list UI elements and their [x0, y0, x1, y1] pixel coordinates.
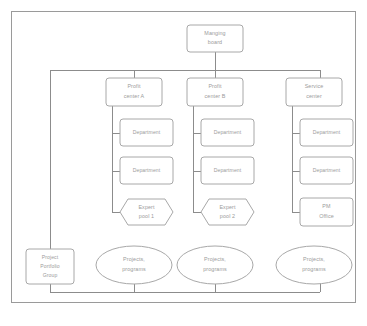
project-portfolio-group-label-line3: Group: [43, 272, 58, 278]
node-department-s1[interactable]: Department: [300, 119, 353, 146]
node-department-b1[interactable]: Department: [201, 119, 254, 146]
node-pm-office[interactable]: PM Office: [300, 198, 353, 226]
managing-board-label-line2: board: [208, 39, 222, 45]
node-profit-center-a[interactable]: Profit center A: [106, 78, 162, 106]
department-b2-label: Department: [214, 167, 242, 173]
profit-center-b-label-line2: center B: [205, 93, 226, 99]
profit-center-a-label-line1: Profit: [127, 83, 141, 89]
projects-programs-a-label-line2: programs: [122, 266, 146, 272]
project-portfolio-group-label-line2: Portfolio: [40, 263, 60, 269]
department-a2-label: Department: [133, 167, 161, 173]
profit-center-b-label-line1: Profit: [208, 83, 222, 89]
org-chart-canvas: Manging board Profit center A Profit cen…: [0, 0, 367, 326]
node-projects-programs-a[interactable]: Projects, programs: [96, 246, 172, 284]
expert-pool-2-label-line1: Expert: [219, 204, 236, 210]
department-s1-label: Department: [313, 129, 341, 135]
node-department-s2[interactable]: Department: [300, 157, 353, 184]
department-s2-label: Department: [313, 167, 341, 173]
node-project-portfolio-group[interactable]: Project Portfolio Group: [26, 249, 74, 284]
department-b1-label: Department: [214, 129, 242, 135]
service-center-label-line2: center: [306, 93, 322, 99]
node-service-center[interactable]: Service center: [286, 78, 342, 106]
node-projects-programs-s[interactable]: Projects, programs: [276, 246, 352, 284]
projects-programs-a-label-line1: Projects,: [123, 256, 145, 262]
node-projects-programs-b[interactable]: Projects, programs: [177, 246, 253, 284]
projects-programs-b-label-line2: programs: [203, 266, 227, 272]
project-portfolio-group-label-line1: Project: [42, 254, 59, 260]
expert-pool-1-label-line1: Expert: [138, 204, 155, 210]
projects-programs-b-label-line1: Projects,: [204, 256, 226, 262]
node-department-a2[interactable]: Department: [120, 157, 173, 184]
service-center-label-line1: Service: [305, 83, 324, 89]
expert-pool-2-label-line2: pool 2: [220, 213, 235, 219]
profit-center-a-label-line2: center A: [124, 93, 145, 99]
node-department-a1[interactable]: Department: [120, 119, 173, 146]
node-profit-center-b[interactable]: Profit center B: [187, 78, 243, 106]
node-expert-pool-1[interactable]: Expert pool 1: [120, 199, 173, 225]
pm-office-label-line1: PM: [322, 203, 331, 209]
org-chart-diagram: Manging board Profit center A Profit cen…: [0, 0, 367, 326]
node-managing-board[interactable]: Manging board: [187, 25, 243, 52]
projects-programs-s-label-line2: programs: [302, 266, 326, 272]
expert-pool-1-label-line2: pool 1: [139, 213, 154, 219]
node-expert-pool-2[interactable]: Expert pool 2: [201, 199, 254, 225]
department-a1-label: Department: [133, 129, 161, 135]
node-department-b2[interactable]: Department: [201, 157, 254, 184]
pm-office-label-line2: Office: [319, 213, 334, 219]
managing-board-label-line1: Manging: [204, 30, 225, 36]
projects-programs-s-label-line1: Projects,: [303, 256, 325, 262]
